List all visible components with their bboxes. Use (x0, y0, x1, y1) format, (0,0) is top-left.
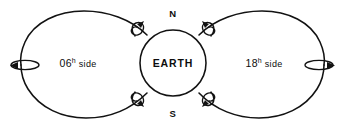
right-lobe-hour: 18 (246, 57, 258, 69)
left-lobe-word: side (79, 59, 97, 69)
earth-flux-tube-figure: EARTH N S 06h side 18h side (0, 0, 343, 131)
right-lobe-hour-superscript: h (258, 57, 262, 64)
left-lobe-hour-superscript: h (72, 57, 76, 64)
curl-arrow-top-right-icon (202, 21, 215, 36)
south-pole-label: S (164, 108, 182, 119)
left-lobe-label: 06h side (23, 57, 133, 69)
earth-label: EARTH (141, 57, 205, 69)
right-lobe-label: 18h side (209, 57, 319, 69)
right-lobe-word: side (265, 59, 283, 69)
curl-arrow-top-left-icon (131, 21, 144, 36)
left-lobe-hour: 06 (60, 57, 72, 69)
north-pole-label: N (164, 8, 182, 19)
